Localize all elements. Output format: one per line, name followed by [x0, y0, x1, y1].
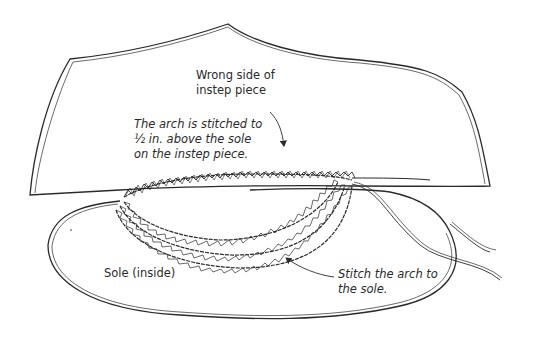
- thread-tails: [352, 182, 502, 280]
- stitch-note-label: Stitch the arch to the sole.: [338, 267, 438, 297]
- seam-line: [352, 178, 430, 180]
- sole-label-line1: Sole (inside): [104, 266, 175, 281]
- arch-note-label: The arch is stitched to ½ in. above the …: [134, 117, 262, 162]
- arch-note-line3: on the instep piece.: [134, 147, 262, 162]
- instep-label: Wrong side of instep piece: [196, 68, 275, 98]
- instep-label-line2: instep piece: [196, 83, 275, 98]
- stitch-note-line1: Stitch the arch to: [338, 267, 438, 282]
- sole-label: Sole (inside): [104, 266, 175, 281]
- arch-note-line1: The arch is stitched to: [134, 117, 262, 132]
- diagram-canvas: [0, 0, 534, 342]
- arch-top-arrow: [270, 112, 284, 146]
- arch-note-line2: ½ in. above the sole: [134, 132, 262, 147]
- stitch-arrow: [286, 258, 334, 277]
- stitch-note-line2: the sole.: [338, 282, 438, 297]
- instep-label-line1: Wrong side of: [196, 68, 275, 83]
- sole: [48, 189, 456, 319]
